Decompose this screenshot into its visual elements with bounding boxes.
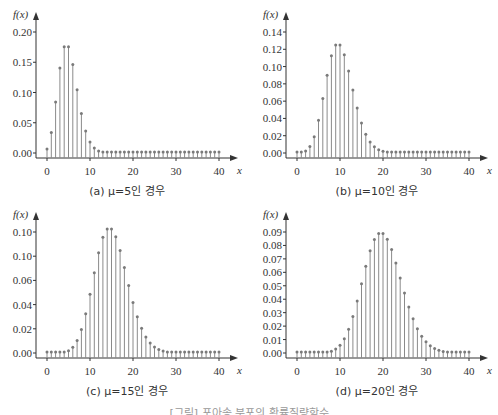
stem-marker [429, 151, 432, 154]
stem-marker [416, 327, 419, 330]
x-tick-label: 20 [128, 165, 140, 177]
stem-marker [183, 351, 186, 354]
stem-marker [429, 344, 432, 347]
stem-marker [377, 148, 380, 151]
x-tick-label: 10 [85, 165, 97, 177]
y-tick-label: 0.09 [263, 226, 283, 238]
stem-marker [356, 299, 359, 302]
stem-chart-a: f(x)x0.000.050.100.150.20010203040(a) μ=… [0, 0, 250, 200]
stem-marker [433, 151, 436, 154]
stem-marker [360, 282, 363, 285]
stem-marker [46, 147, 49, 150]
stem-marker [420, 335, 423, 338]
stem-marker [89, 293, 92, 296]
stem-chart-d: f(x)x0.000.010.020.030.040.050.060.070.0… [250, 200, 498, 400]
stem-marker [106, 228, 109, 231]
stem-marker [54, 351, 57, 354]
stem-marker [300, 151, 303, 154]
stem-marker [132, 151, 135, 154]
stem-marker [213, 151, 216, 154]
stem-marker [364, 265, 367, 268]
stem-marker [446, 151, 449, 154]
y-tick-label: 0.10 [13, 226, 33, 238]
stem-marker [468, 351, 471, 354]
y-tick-label: 0.02 [263, 130, 282, 142]
stem-marker [360, 122, 363, 125]
plot-area: f(x)x0.000.010.020.030.040.050.060.070.0… [263, 208, 492, 398]
stem-marker [321, 97, 324, 100]
y-tick-label: 0.07 [263, 253, 283, 265]
y-tick-label: 0.20 [13, 26, 33, 38]
stem-marker [187, 351, 190, 354]
stem-marker [183, 151, 186, 154]
stem-marker [140, 327, 143, 330]
stem-marker [442, 350, 445, 353]
x-tick-label: 10 [335, 365, 347, 377]
stem-marker [119, 151, 122, 154]
stem-marker [308, 145, 311, 148]
y-axis-label: f(x) [263, 208, 279, 221]
y-tick-label: 0.01 [263, 334, 282, 346]
stem-marker [200, 151, 203, 154]
stem-chart-b: f(x)x0.000.020.040.060.080.100.120.14010… [250, 0, 498, 200]
stem-marker [459, 151, 462, 154]
stem-chart-c: f(x)x0.000.020.040.060.100.10010203040(c… [0, 200, 250, 400]
stem-marker [296, 351, 299, 354]
stem-marker [114, 235, 117, 238]
stem-marker [394, 151, 397, 154]
stem-marker [403, 292, 406, 295]
stem-marker [123, 266, 126, 269]
stem-marker [93, 147, 96, 150]
stem-marker [179, 351, 182, 354]
stem-marker [459, 351, 462, 354]
stem-marker [313, 351, 316, 354]
stem-marker [110, 228, 113, 231]
stem-marker [407, 151, 410, 154]
stem-marker [317, 119, 320, 122]
stem-marker [382, 150, 385, 153]
x-tick-label: 30 [171, 165, 183, 177]
stem-marker [364, 133, 367, 136]
stem-marker [162, 151, 165, 154]
x-tick-label: 30 [171, 365, 183, 377]
panel-caption: (a) μ=5인 경우 [89, 185, 165, 198]
x-tick-label: 40 [214, 165, 226, 177]
y-tick-label: 0.00 [13, 347, 33, 359]
y-tick-label: 0.05 [13, 117, 33, 129]
y-tick-label: 0.04 [13, 299, 33, 311]
stem-marker [166, 151, 169, 154]
y-axis-arrow-icon [283, 12, 289, 20]
stem-marker [373, 238, 376, 241]
panel-caption: (d) μ=20인 경우 [336, 385, 419, 398]
stem-marker [76, 88, 79, 91]
y-tick-label: 0.03 [263, 307, 283, 319]
stem-marker [330, 350, 333, 353]
stem-marker [97, 251, 100, 254]
stem-marker [192, 151, 195, 154]
stem-marker [339, 344, 342, 347]
stem-marker [200, 351, 203, 354]
x-tick-label: 0 [294, 365, 300, 377]
stem-marker [93, 271, 96, 274]
stem-marker [170, 351, 173, 354]
stem-marker [450, 151, 453, 154]
y-tick-label: 0.05 [263, 280, 283, 292]
y-tick-label: 0.10 [13, 87, 33, 99]
stem-marker [296, 151, 299, 154]
stem-marker [373, 145, 376, 148]
x-tick-label: 20 [128, 365, 140, 377]
y-tick-label: 0.00 [13, 147, 33, 159]
stem-marker [403, 151, 406, 154]
stem-marker [446, 351, 449, 354]
y-tick-label: 0.15 [13, 56, 33, 68]
plot-area: f(x)x0.000.020.040.060.100.10010203040(c… [13, 208, 242, 398]
stem-marker [347, 70, 350, 73]
stem-marker [209, 151, 212, 154]
stem-marker [205, 151, 208, 154]
x-tick-label: 10 [85, 365, 97, 377]
stem-marker [317, 351, 320, 354]
stem-marker [339, 43, 342, 46]
stem-marker [390, 151, 393, 154]
stem-marker [101, 236, 104, 239]
plot-area: f(x)x0.000.050.100.150.20010203040(a) μ=… [13, 8, 242, 198]
